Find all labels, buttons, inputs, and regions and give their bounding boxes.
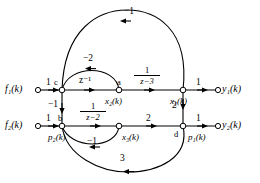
node-d-p1 [180, 123, 186, 129]
fraction-denominator-a-to-x1: z−3 [134, 77, 160, 86]
gain-label-x1-to-y1: 1 [196, 78, 201, 88]
gain-label-b-to-x3: 1 z−2 [80, 102, 106, 122]
node-c [59, 87, 65, 93]
fraction-numerator-a-to-x1: 1 [134, 66, 160, 75]
gain-label-d-to-y2: 1 [196, 114, 201, 124]
state-label-p1: p₁(k) [188, 133, 206, 142]
output-label-y2: y₂(k) [222, 120, 241, 130]
input-label-f1: f₁(k) [5, 84, 22, 94]
gain-label-x3-to-d: 2 [146, 114, 151, 124]
fraction-numerator-b-to-x3: 1 [80, 102, 106, 111]
graph-canvas [0, 0, 260, 183]
output-terminal-y2 [215, 123, 220, 128]
gain-label-x1-to-d: 2 [172, 101, 177, 111]
output-terminal-y1 [215, 87, 220, 92]
fraction-denominator-b-to-x3: z−2 [80, 113, 106, 122]
node-x1 [180, 87, 186, 93]
node-tag-b: b [58, 114, 62, 123]
state-label-x2: x₂(k) [105, 97, 122, 106]
gain-label-f1-to-c: 1 [46, 78, 51, 88]
input-terminal-f2 [35, 123, 40, 128]
node-x3 [116, 123, 122, 129]
gain-label-d-to-b: 3 [120, 154, 125, 164]
gain-label-c-to-a: z⁻¹ [79, 76, 91, 86]
input-terminal-f1 [35, 87, 40, 92]
node-tag-d: d [174, 130, 178, 139]
gain-label-f2-to-b: 1 [46, 114, 51, 124]
gain-label-a-to-c: −2 [83, 54, 93, 64]
state-label-p2: p₂(k) [48, 133, 66, 142]
gain-label-a-to-x1: 1 z−3 [134, 66, 160, 86]
gain-label-x1-to-c: −1 [124, 7, 134, 17]
node-a-x2 [116, 87, 122, 93]
node-tag-c: c [54, 78, 58, 87]
node-tag-a: a [117, 78, 121, 87]
state-label-x3: x₃(k) [122, 133, 139, 142]
output-label-y1: y₁(k) [222, 84, 241, 94]
input-label-f2: f₂(k) [5, 120, 22, 130]
gain-label-c-to-b: −1 [48, 100, 58, 110]
gain-label-x3-to-b: −1 [87, 137, 97, 147]
node-b-p2 [59, 123, 65, 129]
signal-flow-graph-figure: f₁(k) f₂(k) y₁(k) y₂(k) c a b d x₂(k) x₁… [0, 0, 260, 183]
